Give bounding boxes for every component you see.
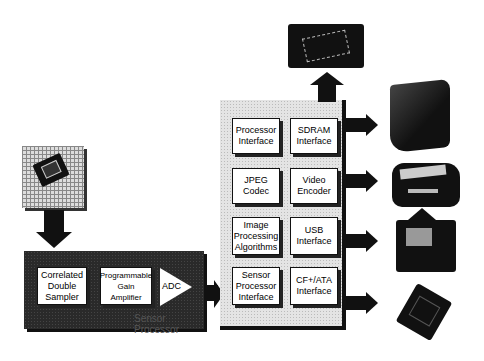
adc-label: ADC [162,281,181,291]
image-sensor-picture [22,146,84,208]
sensor-processor-label: Sensor Processor [134,313,204,335]
printer-image [392,163,460,207]
image-processor-panel: Processor Interface SDRAM Interface JPEG… [220,100,346,330]
arrow-down-head-icon [36,232,72,248]
usb-interface-block: USB Interface [290,217,338,255]
jpeg-codec-block: JPEG Codec [232,168,280,204]
sensor-processor-interface-block: Sensor Processor Interface [232,267,280,305]
computer-image [396,220,456,272]
image-processing-block: Image Processing Algorithms [232,217,280,255]
arrow-up-icon [318,84,336,102]
arrow-right-tv-icon [366,114,378,136]
pga-block: Programmable Gain Amplifier [100,267,152,305]
arrow-down-icon [44,210,64,234]
arrow-up-computer-icon [408,208,436,220]
arrow-right-pc-icon [366,230,378,252]
television-image [390,79,450,153]
arrow-right-card-icon [366,292,378,314]
sensor-processor-box: Correlated Double Sampler Programmable G… [24,251,204,329]
arrow-right-printer-icon [366,170,378,192]
arrow-pc-shaft [346,234,368,248]
sdram-interface-block: SDRAM Interface [290,118,338,154]
arrow-card-shaft [346,296,368,310]
arrow-printer-shaft [346,174,368,188]
cds-block: Correlated Double Sampler [37,267,87,305]
arrow-tv-shaft [346,118,368,132]
sdram-chip-image [288,24,364,68]
sensor-chip-icon [32,153,69,187]
cf-ata-interface-block: CF+/ATA Interface [290,267,338,305]
arrow-up-head-icon [310,72,344,85]
video-encoder-block: Video Encoder [290,168,338,204]
compact-flash-card-image [396,283,453,341]
processor-interface-block: Processor Interface [232,118,280,154]
